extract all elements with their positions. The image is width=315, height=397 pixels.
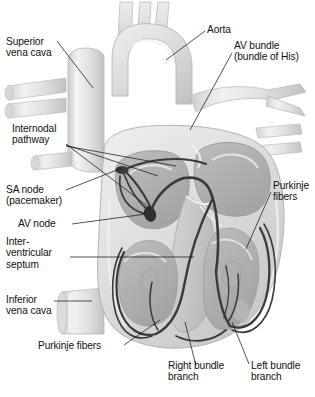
- pulmonary-vein-stub-cut: [31, 156, 39, 170]
- label-interventricular-septum: Inter-ventricularseptum: [6, 236, 52, 270]
- label-internodal-pathway-line2: pathway: [12, 134, 49, 145]
- label-inferior-vena-cava: Inferiorvena cava: [6, 294, 52, 317]
- label-purkinje-fibers-right: Purkinjefibers: [273, 180, 309, 203]
- label-left-bundle-branch: Left bundlebranch: [251, 360, 300, 383]
- label-inferior-vena-cava-line2: vena cava: [6, 305, 52, 316]
- label-interventricular-septum-line1: Inter-: [6, 236, 29, 247]
- label-interventricular-septum-line2: ventricular: [6, 247, 52, 258]
- label-superior-vena-cava-line2: vena cava: [6, 47, 52, 58]
- label-superior-vena-cava: Superiorvena cava: [6, 36, 52, 59]
- label-internodal-pathway: Internodalpathway: [12, 123, 56, 146]
- inferior-vena-cava-vessel: [62, 288, 104, 334]
- superior-vena-cava-vessel: [68, 48, 104, 172]
- label-superior-vena-cava-line1: Superior: [6, 36, 44, 47]
- label-sa-node: SA node(pacemaker): [6, 184, 62, 207]
- label-av-node: AV node: [18, 218, 56, 229]
- label-inferior-vena-cava-line1: Inferior: [6, 294, 37, 305]
- label-sa-node-line2: (pacemaker): [6, 195, 62, 206]
- diagram-canvas: Superiorvena cava Aorta AV bundle(bundle…: [0, 0, 315, 397]
- label-right-bundle-branch: Right bundlebranch: [168, 360, 224, 383]
- label-purkinje-fibers-right-line2: fibers: [273, 191, 297, 202]
- label-av-bundle: AV bundle(bundle of His): [234, 40, 299, 63]
- label-purkinje-fibers-left: Purkinje fibers: [38, 340, 101, 351]
- ivc-cut-end: [57, 292, 67, 334]
- label-left-bundle-branch-line2: branch: [251, 371, 282, 382]
- label-right-bundle-branch-line1: Right bundle: [168, 360, 224, 371]
- label-av-bundle-line2: (bundle of His): [234, 51, 299, 62]
- label-interventricular-septum-line3: septum: [6, 259, 39, 270]
- label-internodal-pathway-line1: Internodal: [12, 123, 56, 134]
- vein-cut-end-lower: [5, 104, 13, 118]
- label-purkinje-fibers-right-line1: Purkinje: [273, 180, 309, 191]
- label-right-bundle-branch-line2: branch: [168, 371, 199, 382]
- label-av-bundle-line1: AV bundle: [234, 40, 279, 51]
- label-sa-node-line1: SA node: [6, 184, 44, 195]
- vein-cut-end-upper: [5, 86, 13, 100]
- label-left-bundle-branch-line1: Left bundle: [251, 360, 300, 371]
- label-aorta: Aorta: [207, 24, 231, 35]
